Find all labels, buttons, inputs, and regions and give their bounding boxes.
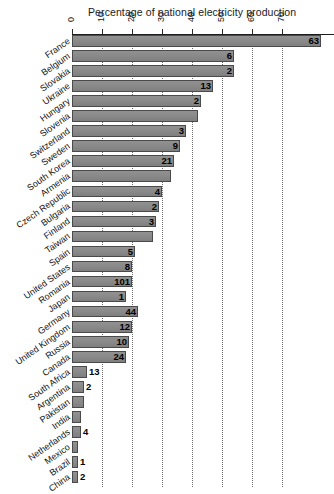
bar-value-label: 2 [86, 381, 91, 393]
bar-row: 2 [72, 471, 322, 483]
chart-title: Percentage of national electricity produ… [88, 6, 328, 18]
bar-row: 10 [72, 336, 322, 348]
x-tick-10 [102, 29, 103, 34]
x-tick-30 [162, 29, 163, 34]
bar-value-label: 2 [80, 471, 85, 483]
bar-value-label: 6 [227, 50, 232, 62]
bar-row: 63 [72, 35, 322, 47]
bar-ukraine [72, 80, 213, 92]
bar-united-states [72, 261, 132, 273]
x-tick-60 [252, 29, 253, 34]
bar-czech-republic [72, 186, 162, 198]
bar-row: 13 [72, 80, 322, 92]
bar-row: 24 [72, 351, 322, 363]
bar-bulgaria [72, 201, 159, 213]
bar-value-label: 4 [155, 186, 160, 198]
bar-china [72, 471, 78, 483]
bar-row: 44 [72, 306, 322, 318]
bar-row: 9 [72, 140, 322, 152]
x-tick-label-20: 20 [126, 12, 136, 22]
bar-row: 2 [72, 381, 322, 393]
bar-hungary [72, 95, 201, 107]
bar-row [72, 231, 322, 243]
bar-value-label: 44 [125, 306, 136, 318]
bar-row: 13 [72, 366, 322, 378]
bar-row [72, 411, 322, 423]
bar-value-label: 13 [89, 366, 100, 378]
bar-row: 1 [72, 291, 322, 303]
bar-belgium [72, 50, 234, 62]
bar-slovenia [72, 110, 198, 122]
bar-row: 12 [72, 321, 322, 333]
bar-row [72, 170, 322, 182]
bar-value-label: 2 [194, 95, 199, 107]
bar-row: 3 [72, 216, 322, 228]
bar-row: 2 [72, 65, 322, 77]
bar-brazil [72, 456, 78, 468]
bar-france [72, 35, 321, 47]
bar-armenia [72, 170, 171, 182]
bar-value-label: 13 [200, 80, 211, 92]
x-tick-label-60: 60 [246, 12, 256, 22]
x-tick-label-70: 70 [276, 12, 286, 22]
bar-value-label: 63 [308, 35, 319, 47]
bar-value-label: 5 [128, 246, 133, 258]
bar-value-label: 2 [152, 201, 157, 213]
bar-value-label: 21 [161, 155, 172, 167]
bar-row: 2 [72, 95, 322, 107]
bar-argentina [72, 381, 84, 393]
x-tick-0 [72, 29, 73, 34]
bar-value-label: 9 [173, 140, 178, 152]
bar-south-korea [72, 155, 174, 167]
bar-value-label: 8 [125, 261, 130, 273]
bar-row [72, 396, 322, 408]
bar-value-label: 1 [119, 291, 124, 303]
bar-row: 8 [72, 261, 322, 273]
bar-row [72, 110, 322, 122]
x-tick-label-10: 10 [96, 12, 106, 22]
bar-pakistan [72, 396, 84, 408]
bar-row: 21 [72, 155, 322, 167]
x-tick-label-30: 30 [156, 12, 166, 22]
bar-row: 6 [72, 50, 322, 62]
bar-value-label: 4 [83, 426, 88, 438]
bar-row: 101 [72, 276, 322, 288]
bar-row: 3 [72, 125, 322, 137]
bar-switzerland [72, 125, 186, 137]
x-tick-40 [192, 29, 193, 34]
bar-value-label: 24 [113, 351, 124, 363]
bar-value-label: 12 [119, 321, 130, 333]
x-tick-20 [132, 29, 133, 34]
bar-row: 4 [72, 186, 322, 198]
bar-value-label: 101 [114, 276, 130, 288]
plot-area: 6362132392142358101144121024132412 [72, 35, 322, 487]
bar-row [72, 441, 322, 453]
bar-taiwan [72, 231, 153, 243]
x-tick-label-40: 40 [186, 12, 196, 22]
bar-south-africa [72, 366, 87, 378]
x-tick-label-50: 50 [216, 12, 226, 22]
bar-row: 4 [72, 426, 322, 438]
bar-value-label: 10 [116, 336, 127, 348]
bar-netherlands [72, 426, 81, 438]
x-tick-70 [282, 29, 283, 34]
bar-value-label: 3 [179, 125, 184, 137]
bar-row: 2 [72, 201, 322, 213]
bar-india [72, 411, 81, 423]
x-tick-label-0: 0 [66, 17, 76, 22]
bar-sweden [72, 140, 180, 152]
bar-finland [72, 216, 156, 228]
bar-value-label: 3 [149, 216, 154, 228]
bar-value-label: 2 [227, 65, 232, 77]
bar-value-label: 1 [80, 456, 85, 468]
bar-chart: Percentage of national electricity produ… [0, 0, 334, 494]
bar-mexico [72, 441, 78, 453]
bar-row: 1 [72, 456, 322, 468]
x-tick-50 [222, 29, 223, 34]
bar-row: 5 [72, 246, 322, 258]
bar-slovakia [72, 65, 234, 77]
bar-spain [72, 246, 135, 258]
